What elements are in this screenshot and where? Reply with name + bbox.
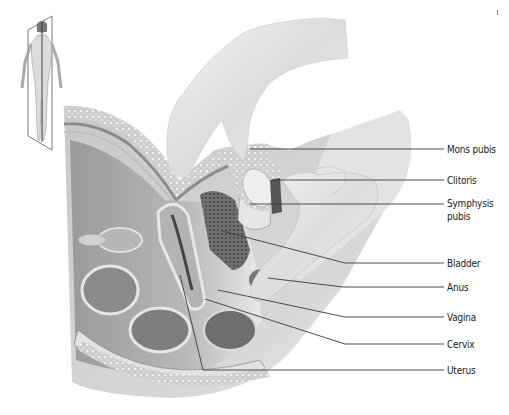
label-clitoris: Clitoris xyxy=(447,174,477,187)
label-mons-pubis: Mons pubis xyxy=(447,143,496,156)
page-mark xyxy=(497,10,498,15)
label-anus: Anus xyxy=(447,281,468,294)
label-cervix: Cervix xyxy=(447,338,474,351)
pelvic-illustration xyxy=(0,0,509,415)
label-symphysis-pubis-line2: pubis xyxy=(447,210,470,223)
anatomy-diagram: Mons pubis Clitoris Symphysis pubis Blad… xyxy=(0,0,509,415)
label-uterus: Uterus xyxy=(447,364,475,377)
label-vagina: Vagina xyxy=(447,311,476,324)
label-bladder: Bladder xyxy=(447,257,480,270)
label-symphysis-pubis-line1: Symphysis xyxy=(447,197,493,210)
orientation-figure xyxy=(22,16,61,150)
